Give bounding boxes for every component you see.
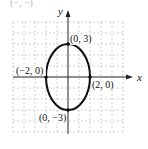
label-left: (−2, 0) [16, 65, 43, 77]
point-bottom [66, 108, 70, 112]
y-axis-arrow-icon [66, 10, 71, 17]
y-axis-label: y [57, 5, 63, 17]
ellipse-diagram: (−, −) x y (0, [0, 0, 148, 149]
x-axis-arrow-icon [126, 75, 133, 80]
label-bottom: (0, −3) [39, 112, 66, 124]
top-partial-label: (−, −) [10, 0, 33, 9]
label-right: (2, 0) [92, 79, 114, 91]
label-top: (0, 3) [70, 33, 92, 45]
x-axis-label: x [136, 71, 142, 83]
